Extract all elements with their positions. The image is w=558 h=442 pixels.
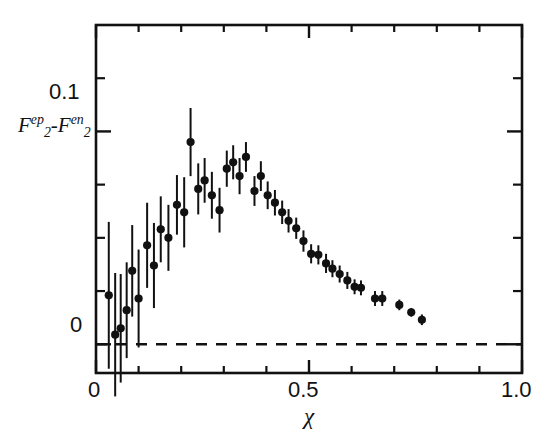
y-tick-label-0: 0 xyxy=(70,314,82,336)
data-series-points xyxy=(105,108,426,396)
x-tick-label-1.0: 1.0 xyxy=(501,379,532,401)
x-axis-label: χ xyxy=(304,405,314,428)
x-tick-label-0.5: 0.5 xyxy=(288,379,319,401)
figure-canvas: Fep2-Fen2 0.1 0 0 0.5 1.0 χ xyxy=(0,0,558,442)
y-axis-label-f2-base: F xyxy=(58,113,71,137)
x-tick-label-0: 0 xyxy=(88,379,100,401)
y-axis-label-f1-subscript: 2 xyxy=(44,125,51,140)
y-tick-label-0.1: 0.1 xyxy=(49,81,80,103)
y-axis-label-f2-subscript: 2 xyxy=(84,125,91,140)
y-axis-label: Fep2-Fen2 xyxy=(18,113,91,140)
y-axis-label-f1-base: F xyxy=(18,113,31,137)
y-axis-label-f1-superscript: ep xyxy=(31,112,44,127)
y-axis-label-f2-superscript: en xyxy=(71,112,84,127)
plot-area xyxy=(0,0,558,442)
y-axis-label-minus: - xyxy=(51,113,58,137)
